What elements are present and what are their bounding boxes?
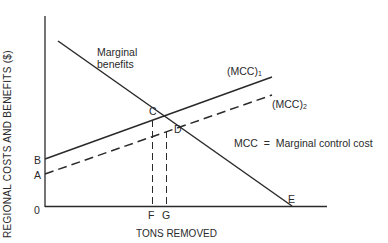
marginal-benefits-label-line1: Marginal: [97, 46, 137, 58]
origin-label: 0: [34, 205, 40, 216]
mcc1-label-text: (MCC): [227, 65, 258, 77]
marginal-cost-benefit-diagram: REGIONAL COSTS AND BENEFITS ($) Marginal…: [0, 0, 388, 243]
mcc1-label: (MCC)1: [227, 66, 262, 77]
marginal-benefits-label: Marginal benefits: [97, 46, 137, 70]
mcc2-label: (MCC)2: [272, 99, 307, 110]
mcc2-subscript: 2: [303, 103, 307, 110]
point-c-label: C: [149, 106, 157, 117]
mcc-legend: MCC = Marginal control cost: [234, 138, 373, 149]
diagram-canvas: [0, 0, 388, 243]
point-f-label: F: [148, 210, 154, 221]
point-d-label: D: [174, 124, 182, 135]
point-e-label: E: [288, 194, 295, 205]
marginal-benefits-label-line2: benefits: [97, 58, 137, 70]
point-b-label: B: [34, 155, 41, 166]
point-g-label: G: [162, 210, 170, 221]
point-a-label: A: [34, 170, 41, 181]
mcc2-label-text: (MCC): [272, 98, 303, 110]
y-axis-label: REGIONAL COSTS AND BENEFITS ($): [2, 38, 13, 238]
x-axis-label: TONS REMOVED: [136, 229, 217, 239]
mcc2-curve: [45, 95, 272, 174]
mcc1-subscript: 1: [258, 70, 262, 77]
